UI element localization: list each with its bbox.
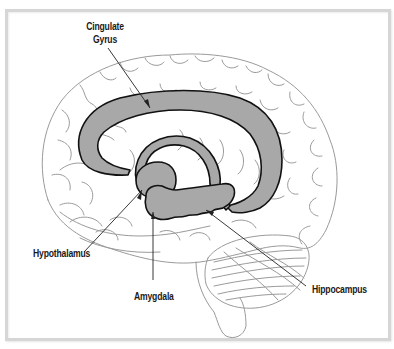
brain-diagram	[0, 0, 394, 349]
brainstem	[196, 262, 246, 338]
cingulate-gyrus-label-line2: Gyrus	[79, 33, 131, 46]
hippocampus-leader-line	[206, 210, 306, 286]
hippocampus-label: Hippocampus	[312, 283, 367, 296]
cingulate-gyrus-label-line1: Cingulate	[79, 20, 131, 33]
cerebellum	[205, 235, 309, 308]
hippocampus-amygdala	[145, 184, 234, 220]
hypothalamus-label: Hypothalamus	[33, 247, 90, 260]
cingulate-gyrus-label: Cingulate Gyrus	[79, 20, 131, 46]
amygdala-label: Amygdala	[134, 290, 174, 303]
